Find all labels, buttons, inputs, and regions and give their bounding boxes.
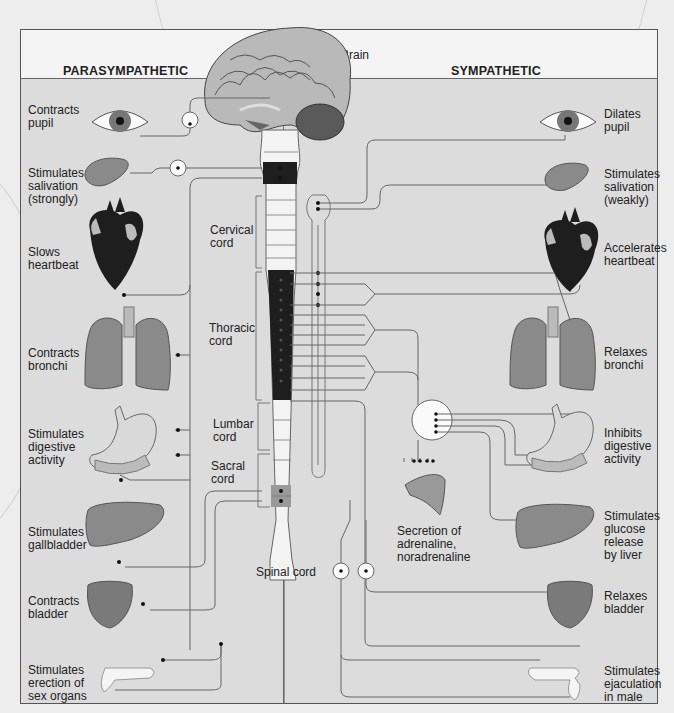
sex-organs-icon-left bbox=[101, 668, 154, 692]
nervous-system-diagram bbox=[0, 0, 674, 713]
adrenal-gland-icon bbox=[405, 475, 445, 515]
label-stimulates-glucose-release: Stimulates glucose release by liver bbox=[604, 510, 659, 562]
label-stimulates-erection: Stimulates erection of sex organs bbox=[28, 664, 88, 703]
stomach-icon-left bbox=[90, 406, 157, 474]
label-spinal-cord: Spinal cord bbox=[256, 566, 336, 579]
label-stimulates-ejaculation: Stimulates ejaculation in male bbox=[604, 665, 662, 704]
label-dilates-pupil: Dilates pupil bbox=[604, 108, 659, 134]
brain-icon bbox=[205, 28, 351, 140]
label-contracts-bladder: Contracts bladder bbox=[28, 595, 88, 621]
label-inhibits-digestive-activity: Inhibits digestive activity bbox=[604, 427, 659, 466]
heart-icon-right bbox=[544, 207, 598, 292]
spinal-cord bbox=[260, 130, 300, 704]
label-accelerates-heartbeat: Accelerates heartbeat bbox=[604, 242, 662, 268]
label-slows-heartbeat: Slows heartbeat bbox=[28, 246, 88, 272]
label-relaxes-bladder: Relaxes bladder bbox=[604, 590, 659, 616]
sex-organs-icon-right bbox=[528, 668, 580, 700]
label-relaxes-bronchi: Relaxes bronchi bbox=[604, 346, 659, 372]
lungs-icon-right bbox=[510, 307, 595, 390]
lungs-icon-left bbox=[85, 307, 170, 390]
label-sacral-cord: Sacral cord bbox=[211, 460, 256, 486]
heart-icon-left bbox=[89, 197, 143, 290]
label-stimulates-digestive-activity: Stimulates digestive activity bbox=[28, 428, 90, 467]
label-contracts-bronchi: Contracts bronchi bbox=[28, 347, 88, 373]
label-thoracic-cord: Thoracic cord bbox=[209, 322, 259, 348]
label-lumbar-cord: Lumbar cord bbox=[213, 418, 258, 444]
bladder-icon-left bbox=[87, 581, 132, 628]
label-stimulates-salivation-strongly: Stimulates salivation (strongly) bbox=[28, 167, 88, 206]
eye-icon-left bbox=[92, 110, 148, 132]
label-cervical-cord: Cervical cord bbox=[210, 224, 260, 250]
label-contracts-pupil: Contracts pupil bbox=[28, 104, 88, 130]
label-stimulates-gallbladder: Stimulates gallbladder bbox=[28, 526, 90, 552]
eye-icon-right bbox=[540, 110, 596, 132]
liver-icon-left bbox=[86, 502, 164, 546]
bladder-icon-right bbox=[547, 581, 592, 628]
sympathetic-chain bbox=[307, 195, 331, 478]
salivary-gland-icon-right bbox=[545, 163, 588, 190]
label-stimulates-salivation-weakly: Stimulates salivation (weakly) bbox=[604, 168, 659, 207]
salivary-gland-icon-left bbox=[85, 158, 128, 186]
liver-icon-right bbox=[516, 504, 594, 548]
label-adrenaline-secretion: Secretion of adrenaline, noradrenaline bbox=[397, 525, 497, 564]
